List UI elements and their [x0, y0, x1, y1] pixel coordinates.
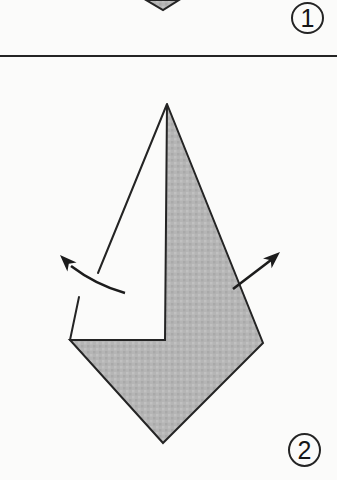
step2-origami-model	[70, 104, 263, 443]
panel-divider	[0, 55, 337, 57]
shaded-layer	[70, 104, 263, 443]
step1-model-bottom-tip	[146, 0, 179, 10]
step-1-badge: 1	[291, 2, 324, 34]
unfold-arrow-left-icon	[60, 255, 125, 293]
step-2-badge: 2	[288, 433, 321, 467]
front-flap-edge-upper	[98, 104, 167, 273]
step-2-number: 2	[298, 438, 312, 463]
origami-instruction-page: 1 2	[0, 0, 337, 480]
step-1-number: 1	[301, 6, 315, 31]
diagram-canvas	[0, 0, 337, 480]
front-flap-edge-lower	[70, 297, 79, 340]
unfold-arrow-right-icon	[233, 252, 280, 289]
